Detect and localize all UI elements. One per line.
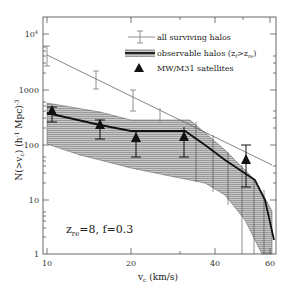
legend: all surviving halos observable halos (zf… [125, 31, 256, 73]
svg-text:10: 10 [29, 196, 39, 205]
triangle-icon [134, 63, 144, 72]
svg-text:1000: 1000 [19, 86, 39, 95]
legend-item-mw-m31-satellites: MW/M31 satellites [134, 63, 234, 73]
legend-item-all-surviving-halos: all surviving halos [128, 31, 231, 43]
svg-text:10: 10 [42, 259, 52, 268]
svg-text:104: 104 [25, 29, 38, 39]
legend-item-observable-halos: observable halos (zf>zre) [125, 49, 256, 59]
x-tick-labels: 10 20 40 60 [42, 259, 275, 268]
svg-text:40: 40 [210, 259, 220, 268]
svg-text:60: 60 [265, 259, 275, 268]
x-axis-title: vc (km/s) [137, 272, 178, 283]
chart: 104 1000 100 10 1 10 20 40 60 vc (km/s) … [0, 0, 290, 294]
svg-text:1: 1 [34, 250, 39, 259]
svg-text:100: 100 [24, 141, 39, 150]
svg-text:MW/M31 satellites: MW/M31 satellites [157, 64, 234, 73]
triangle-marker [241, 154, 251, 164]
annotation-zre-f: zre=8, f=0.3 [66, 223, 133, 238]
y-axis-title: N(>vc) (h-1 Mpc)-3 [13, 99, 25, 180]
svg-text:all surviving halos: all surviving halos [157, 33, 231, 42]
svg-text:observable halos (zf>zre): observable halos (zf>zre) [157, 49, 256, 59]
svg-text:20: 20 [126, 259, 136, 268]
